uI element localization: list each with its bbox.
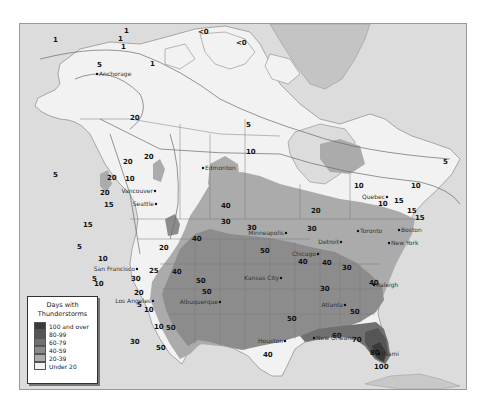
city-dot-icon — [136, 268, 138, 270]
legend-label: 80-99 — [49, 331, 66, 338]
legend-label: 20-39 — [49, 355, 66, 362]
city-dot-icon — [155, 203, 157, 205]
contour-label: 1 — [53, 36, 58, 44]
city-label: Anchorage — [99, 70, 132, 78]
city-miami: Miami — [378, 350, 400, 357]
city-albuquerque: Albuquerque — [180, 298, 222, 306]
contour-label: 15 — [415, 214, 425, 222]
city-label: Minneapolis — [248, 229, 284, 237]
contour-label: 50 — [196, 277, 206, 285]
city-dot-icon — [340, 241, 342, 243]
city-label: Quebec — [362, 193, 385, 200]
city-atlanta: Atlanta — [321, 301, 346, 308]
contour-label: 15 — [407, 207, 417, 215]
contour-label: 5 — [97, 61, 102, 69]
city-label: Atlanta — [321, 301, 343, 308]
contour-label: 20 — [311, 207, 321, 215]
city-vancouver: Vancouver — [121, 187, 156, 194]
city-new-orleans: New Orleans — [313, 334, 354, 341]
city-dot-icon — [154, 190, 156, 192]
contour-label: 40 — [221, 202, 231, 210]
contour-label: 20 — [130, 114, 140, 122]
legend-label: 100 and over — [49, 323, 89, 330]
contour-label: 10 — [354, 182, 364, 190]
contour-label: 10 — [411, 182, 421, 190]
contour-label: 40 — [322, 259, 332, 267]
city-dot-icon — [285, 232, 287, 234]
city-dot-icon — [152, 300, 154, 302]
legend-title: Days with Thunderstorms — [28, 301, 97, 319]
city-dot-icon — [398, 229, 400, 231]
city-label: Los Angeles — [115, 297, 151, 305]
contour-label: 5 — [443, 158, 448, 166]
contour-label: 20 — [123, 158, 133, 166]
contour-label: 40 — [192, 235, 202, 243]
contour-label: 30 — [307, 225, 317, 233]
city-houston: Houston — [258, 337, 286, 344]
contour-label: 10 — [154, 323, 164, 331]
legend-item-100-over: 100 and over — [34, 322, 97, 330]
contour-label: 50 — [202, 288, 212, 296]
city-quebec: Quebec — [362, 193, 388, 200]
contour-label: 50 — [166, 324, 176, 332]
contour-label: 30 — [221, 218, 231, 226]
city-dot-icon — [96, 73, 98, 75]
city-dot-icon — [280, 277, 282, 279]
city-dot-icon — [313, 337, 315, 339]
legend-items: 100 and over 80-99 60-79 40-59 20-39 Und… — [28, 322, 97, 370]
legend-title-line1: Days with — [28, 301, 97, 310]
legend-label: 60-79 — [49, 339, 66, 346]
legend: Days with Thunderstorms 100 and over 80-… — [27, 296, 98, 384]
city-los-angeles: Los Angeles — [115, 297, 154, 305]
legend-swatch — [34, 346, 46, 354]
contour-label: 1 — [121, 43, 126, 51]
city-san-francisco: San Francisco — [94, 265, 138, 272]
contour-label: 25 — [149, 267, 159, 275]
contour-label: 50 — [260, 247, 270, 255]
city-new-york: New York — [388, 239, 419, 246]
city-seattle: Seattle — [133, 200, 157, 207]
contour-label: 10 — [125, 175, 135, 183]
legend-swatch — [34, 322, 46, 330]
city-label: Boston — [401, 226, 422, 233]
legend-item-under-20: Under 20 — [34, 362, 97, 370]
contour-label: <0 — [198, 28, 209, 36]
contour-label: 30 — [130, 338, 140, 346]
contour-label: 15 — [104, 201, 114, 209]
contour-label: 10 — [144, 306, 154, 314]
contour-label: 50 — [350, 308, 360, 316]
city-kansas-city: Kansas City — [244, 274, 282, 282]
contour-label: 100 — [374, 363, 389, 371]
city-label: Miami — [381, 350, 399, 357]
contour-label: 50 — [287, 315, 297, 323]
city-label: Raleigh — [376, 281, 399, 289]
contour-label: 20 — [159, 244, 169, 252]
contour-label: 30 — [342, 264, 352, 272]
legend-swatch — [34, 362, 46, 370]
city-chicago: Chicago — [292, 250, 319, 258]
city-detroit: Detroit — [318, 238, 342, 245]
legend-title-line2: Thunderstorms — [28, 310, 97, 319]
contour-label: 5 — [53, 171, 58, 179]
city-dot-icon — [344, 304, 346, 306]
city-dot-icon — [317, 253, 319, 255]
legend-label: 40-59 — [49, 347, 66, 354]
contour-label: 10 — [94, 280, 104, 288]
city-label: Houston — [258, 337, 283, 344]
contour-label: 5 — [77, 243, 82, 251]
city-edmonton: Edmonton — [202, 164, 236, 171]
city-label: Toronto — [359, 227, 382, 234]
city-dot-icon — [284, 340, 286, 342]
legend-swatch — [34, 354, 46, 362]
city-dot-icon — [378, 353, 380, 355]
contour-label: 15 — [83, 221, 93, 229]
legend-item-40-59: 40-59 — [34, 346, 97, 354]
city-dot-icon — [202, 167, 204, 169]
contour-label: 50 — [156, 344, 166, 352]
contour-label: 15 — [394, 197, 404, 205]
city-label: Albuquerque — [180, 298, 219, 306]
city-dot-icon — [386, 196, 388, 198]
contour-label: <0 — [236, 39, 247, 47]
contour-label: 20 — [134, 289, 144, 297]
city-label: Seattle — [133, 200, 155, 207]
